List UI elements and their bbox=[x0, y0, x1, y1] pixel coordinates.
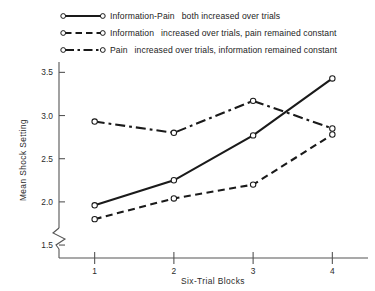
data-point-marker bbox=[171, 130, 176, 135]
x-tick-label: 1 bbox=[92, 266, 97, 276]
y-axis-title: Mean Shock Setting bbox=[18, 119, 28, 201]
x-tick-label: 4 bbox=[330, 266, 335, 276]
data-point-marker bbox=[171, 178, 176, 183]
x-axis-ticks: 1234 bbox=[92, 252, 335, 276]
data-point-marker bbox=[330, 126, 335, 131]
data-point-marker bbox=[250, 133, 255, 138]
series-information bbox=[92, 132, 335, 222]
data-point-marker bbox=[92, 216, 97, 221]
y-tick-label: 3.5 bbox=[41, 67, 53, 77]
y-tick-label: 3.0 bbox=[41, 111, 53, 121]
x-axis-title: Six-Trial Blocks bbox=[181, 276, 245, 286]
line-chart-plot: 1.52.02.53.03.5 1234 Six-Trial Blocks Me… bbox=[0, 0, 375, 291]
data-series-layer bbox=[92, 76, 335, 222]
series-line bbox=[95, 135, 333, 220]
y-tick-label: 2.5 bbox=[41, 154, 53, 164]
x-tick-label: 2 bbox=[172, 266, 177, 276]
series-line bbox=[95, 101, 333, 133]
series-line bbox=[95, 78, 333, 205]
data-point-marker bbox=[92, 119, 97, 124]
data-point-marker bbox=[250, 98, 255, 103]
data-point-marker bbox=[330, 76, 335, 81]
y-tick-label: 1.5 bbox=[41, 240, 53, 250]
data-point-marker bbox=[330, 132, 335, 137]
figure-container: Information-Painboth increased over tria… bbox=[0, 0, 375, 291]
data-point-marker bbox=[92, 203, 97, 208]
x-tick-label: 3 bbox=[251, 266, 256, 276]
data-point-marker bbox=[250, 182, 255, 187]
y-axis-break-icon bbox=[53, 228, 65, 249]
y-tick-label: 2.0 bbox=[41, 197, 53, 207]
y-axis-ticks: 1.52.02.53.03.5 bbox=[41, 67, 65, 250]
series-information-pain bbox=[92, 76, 335, 208]
data-point-marker bbox=[171, 196, 176, 201]
